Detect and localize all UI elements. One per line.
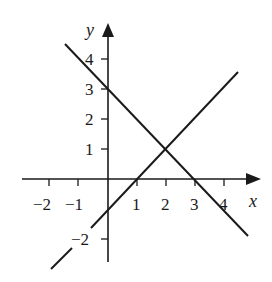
y-tick-label: 1 — [85, 140, 94, 159]
x-tick-label: 3 — [190, 195, 199, 214]
line-ascending-lower — [51, 248, 72, 269]
y-axis-label: y — [84, 20, 94, 40]
coordinate-graph: y x −2 −1 1 2 3 4 4 3 2 1 −2 — [0, 0, 272, 282]
y-tick-label: 3 — [85, 80, 94, 99]
x-tick-label: 1 — [132, 195, 141, 214]
x-tick-label: −1 — [65, 195, 83, 214]
x-axis-arrow-icon — [246, 173, 261, 185]
x-tick-label: 2 — [161, 195, 170, 214]
y-axis — [101, 23, 114, 262]
y-tick-label: 4 — [85, 50, 94, 69]
x-tick-label: 4 — [219, 195, 228, 214]
y-tick-label: 2 — [85, 110, 94, 129]
x-tick-label: −2 — [33, 195, 51, 214]
y-axis-arrow-icon — [102, 23, 114, 37]
x-axis-label: x — [248, 191, 257, 211]
y-tick-label: −2 — [71, 230, 89, 249]
